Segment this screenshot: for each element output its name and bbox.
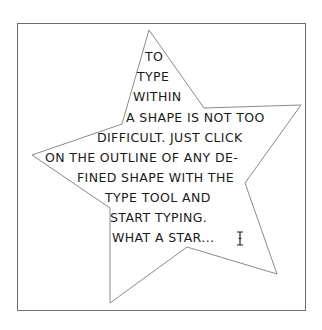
text-line: start typing. <box>110 211 207 225</box>
text-line: What a star... <box>112 231 214 245</box>
text-line: within <box>133 90 182 104</box>
text-line: fined shape with the <box>77 171 234 185</box>
text-line: type tool and <box>105 191 211 205</box>
i-beam-text-cursor-icon <box>236 231 244 246</box>
text-line: on the outline of any de- <box>45 151 238 165</box>
text-line: a shape is not too <box>126 111 265 125</box>
text-line: difficult. Just click <box>97 131 243 145</box>
text-line: type <box>137 70 169 84</box>
text-line: to <box>145 50 163 64</box>
